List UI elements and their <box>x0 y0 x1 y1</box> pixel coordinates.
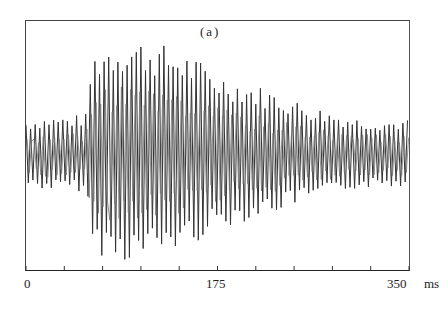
x-tick-350: 350 <box>387 276 407 292</box>
x-tick-175: 175 <box>206 276 226 292</box>
x-tick-0: 0 <box>24 276 31 292</box>
waveform <box>0 0 448 312</box>
x-unit-label: ms <box>424 276 439 292</box>
